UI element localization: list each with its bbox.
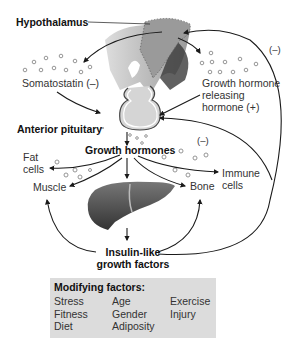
somatostatin-label: Somatostatin (–) [22,77,99,89]
immune-cells-line-1: Immune [222,167,260,179]
brain-illustration [105,18,190,95]
negative-feedback-inner: (–) [197,135,209,147]
ghrh-line-3: hormone (+) [202,101,280,113]
ghrh-label: Growth hormone releasing hormone (+) [202,77,280,113]
factor-exercise: Exercise [170,295,210,308]
igf-line-1: Insulin-like [93,246,173,258]
muscle-label: Muscle [33,181,66,193]
negative-feedback-outer: (–) [269,44,281,56]
immune-cells-line-2: cells [222,179,260,191]
modifying-factors-box: Modifying factors: Stress Fitness Diet A… [50,278,216,338]
igf-line-2: growth factors [93,258,173,270]
modifying-factors-col-2: Age Gender Adiposity [112,295,155,333]
ghrh-line-2: releasing [202,89,280,101]
factor-stress: Stress [54,295,88,308]
modifying-factors-col-3: Exercise Injury [170,295,210,320]
modifying-factors-col-1: Stress Fitness Diet [54,295,88,333]
factor-age: Age [112,295,155,308]
igf-label: Insulin-like growth factors [93,246,173,270]
ghrh-line-1: Growth hormone [202,77,280,89]
anterior-pituitary-label: Anterior pituitary [17,123,102,135]
factor-adiposity: Adiposity [112,320,155,333]
fat-cells-line-1: Fat [23,151,44,163]
liver-illustration [88,182,175,230]
factor-fitness: Fitness [54,308,88,321]
immune-cells-label: Immune cells [222,167,260,191]
growth-hormones-label: Growth hormones [85,144,175,156]
factor-injury: Injury [170,308,210,321]
factor-diet: Diet [54,320,88,333]
hypothalamus-label: Hypothalamus [16,16,88,28]
factor-gender: Gender [112,308,155,321]
fat-cells-label: Fat cells [23,151,44,175]
bone-label: Bone [190,180,215,192]
modifying-factors-title: Modifying factors: [54,281,145,293]
pituitary-gland [120,86,161,130]
fat-cells-line-2: cells [23,163,44,175]
